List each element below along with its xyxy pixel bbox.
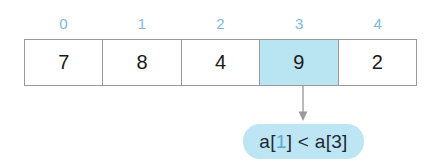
- index-label-4: 4: [338, 13, 417, 35]
- index-label-row: 0 1 2 3 4: [24, 13, 417, 35]
- array-cell-value: 8: [137, 51, 148, 74]
- comparison-annotation-pill: a[1] < a[3]: [243, 124, 364, 159]
- array-cell-value: 9: [293, 51, 304, 74]
- index-label-3: 3: [260, 13, 339, 35]
- index-label-0: 0: [24, 13, 103, 35]
- index-label-1: 1: [103, 13, 182, 35]
- array-cell-value: 2: [372, 51, 383, 74]
- diagram-canvas: 0 1 2 3 4 7 8 4 9 2 a[1] < a[3]: [0, 0, 439, 167]
- array-cell-2: 4: [182, 40, 260, 85]
- array-cell-3-highlighted: 9: [260, 40, 338, 85]
- array-cell-0: 7: [25, 40, 103, 85]
- comparison-expression: a[1] < a[3]: [259, 131, 347, 153]
- expression-suffix: ] < a[3]: [287, 131, 348, 152]
- array-container: 7 8 4 9 2: [24, 39, 417, 86]
- array-cell-value: 7: [58, 51, 69, 74]
- down-arrow-icon: [295, 86, 311, 122]
- array-cell-4: 2: [339, 40, 416, 85]
- array-cell-1: 8: [103, 40, 181, 85]
- array-cell-value: 4: [215, 51, 226, 74]
- expression-accent-index: 1: [276, 131, 287, 152]
- expression-prefix: a[: [259, 131, 275, 152]
- index-label-2: 2: [181, 13, 260, 35]
